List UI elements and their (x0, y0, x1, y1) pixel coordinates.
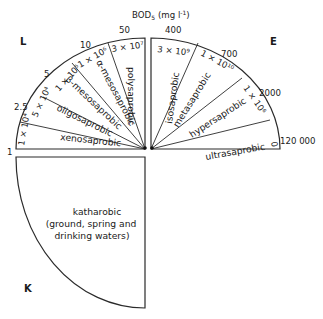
bod-value-1: 1 (7, 147, 12, 157)
bod-axis-title: BOD5(mg l-1) (132, 9, 190, 21)
bod-value-120000: 120 000 (280, 136, 316, 146)
zone-polysaprobic: polysaprobic (126, 67, 137, 125)
bod-value-50: 50 (119, 25, 130, 35)
bod-value-10: 10 (80, 40, 91, 50)
katharobic-description-line1: (ground, spring and (46, 218, 137, 229)
bod-value-400: 400 (165, 25, 181, 35)
zone-katharobic: katharobic (73, 206, 121, 217)
bod-value-2000: 2000 (259, 88, 281, 98)
center-dot-right (150, 146, 154, 150)
saprobic-system-diagram: BOD5(mg l-1) L E K xenosaprobic oligosap… (0, 0, 323, 319)
bod-value-5: 5 (44, 69, 49, 79)
bod-value-700: 700 (221, 49, 237, 59)
corner-label-e: E (270, 36, 277, 47)
right-quadrant: isosaprobic metasaprobic hypersaprobic u… (150, 25, 315, 162)
corner-label-l: L (20, 36, 27, 47)
center-dot-left (143, 146, 147, 150)
left-quadrant: xenosaprobic oligosaprobic β-mesosaprobi… (7, 25, 147, 157)
bod-value-2-5: 2.5 (14, 102, 28, 112)
bottom-quadrant: katharobic (ground, spring and drinking … (16, 157, 145, 308)
corner-label-k: K (24, 283, 33, 294)
katharobic-description-line2: drinking waters) (55, 230, 130, 241)
